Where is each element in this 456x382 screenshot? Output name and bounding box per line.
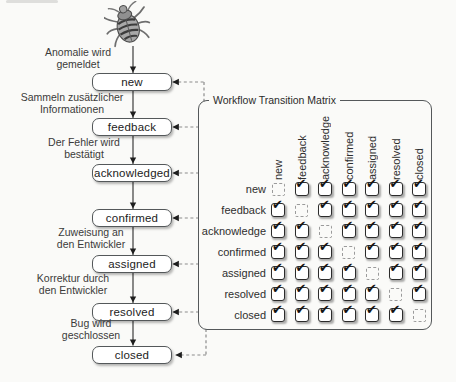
- matrix-cell-checked: ✔: [295, 308, 309, 322]
- matrix-column-header-confirmed: confirmed: [341, 105, 357, 180]
- matrix-cell-empty: [272, 183, 285, 196]
- matrix-cell-checked: ✔: [365, 287, 379, 301]
- matrix-row-label-acknowledge: acknowledge: [201, 225, 266, 237]
- matrix-cell-empty: [413, 309, 426, 322]
- annotation-line: Zuweisung an: [57, 227, 125, 239]
- matrix-cell-checked: ✔: [271, 308, 285, 322]
- arrow-left-icon: [172, 124, 179, 130]
- check-icon: ✔: [296, 260, 307, 275]
- arrow-down-icon: [130, 112, 136, 118]
- matrix-column-header-feedback: feedback: [294, 105, 310, 180]
- state-box-acknowledged: acknowledged: [92, 164, 172, 182]
- check-icon: ✔: [319, 260, 330, 275]
- check-icon: ✔: [319, 176, 330, 191]
- check-icon: ✔: [343, 302, 354, 317]
- matrix-cell-empty: [366, 267, 379, 280]
- check-icon: ✔: [343, 176, 354, 191]
- arrow-down-icon: [130, 158, 136, 164]
- check-icon: ✔: [272, 302, 283, 317]
- check-icon: ✔: [413, 260, 424, 275]
- check-icon: ✔: [319, 197, 330, 212]
- check-icon: ✔: [413, 239, 424, 254]
- check-icon: ✔: [413, 218, 424, 233]
- matrix-column-header-new: new: [270, 105, 286, 180]
- check-icon: ✔: [296, 239, 307, 254]
- matrix-cell-checked: ✔: [271, 287, 285, 301]
- matrix-row-label-feedback: feedback: [201, 204, 266, 216]
- matrix-row-label-new: new: [201, 183, 266, 195]
- check-icon: ✔: [390, 302, 401, 317]
- arrow-left-icon: [172, 215, 179, 221]
- matrix-row-label-closed: closed: [201, 309, 266, 321]
- matrix-cell-checked: ✔: [295, 224, 309, 238]
- bug-icon: [104, 1, 152, 51]
- matrix-cell-checked: ✔: [412, 182, 426, 196]
- matrix-cell-checked: ✔: [271, 266, 285, 280]
- check-icon: ✔: [413, 176, 424, 191]
- annotation-line: den Entwickler: [37, 285, 109, 297]
- check-icon: ✔: [366, 239, 377, 254]
- arrow-down-icon: [130, 297, 136, 303]
- matrix-cell-checked: ✔: [389, 182, 403, 196]
- matrix-cell-empty: [342, 246, 355, 259]
- matrix-cell-checked: ✔: [412, 266, 426, 280]
- annotation-new: Anomalie wirdgemeldet: [45, 47, 111, 70]
- annotation-line: bestätigt: [48, 149, 120, 161]
- check-icon: ✔: [296, 281, 307, 296]
- check-icon: ✔: [366, 302, 377, 317]
- matrix-column-header-acknowledge: acknowledge: [317, 105, 333, 180]
- state-box-assigned: assigned: [92, 255, 172, 273]
- matrix-cell-checked: ✔: [342, 182, 356, 196]
- check-icon: ✔: [272, 281, 283, 296]
- check-icon: ✔: [366, 197, 377, 212]
- matrix-cell-checked: ✔: [271, 245, 285, 259]
- annotation-assigned: Zuweisung anden Entwickler: [57, 227, 125, 250]
- annotation-line: Informationen: [21, 104, 124, 116]
- matrix-cell-checked: ✔: [365, 224, 379, 238]
- check-icon: ✔: [319, 281, 330, 296]
- matrix-cell-checked: ✔: [412, 203, 426, 217]
- state-box-feedback: feedback: [92, 118, 172, 136]
- matrix-cell-checked: ✔: [271, 203, 285, 217]
- check-icon: ✔: [272, 218, 283, 233]
- figure-canvas: Anomalie wirdgemeldetnewSammeln zusätzli…: [0, 0, 456, 382]
- check-icon: ✔: [366, 281, 377, 296]
- check-icon: ✔: [366, 218, 377, 233]
- matrix-cell-checked: ✔: [389, 245, 403, 259]
- annotation-line: Bug wird: [62, 318, 120, 330]
- matrix-cell-checked: ✔: [342, 203, 356, 217]
- arrow-left-icon: [172, 170, 179, 176]
- arrow-down-icon: [130, 203, 136, 209]
- matrix-cell-checked: ✔: [389, 224, 403, 238]
- check-icon: ✔: [343, 281, 354, 296]
- matrix-cell-checked: ✔: [365, 308, 379, 322]
- annotation-line: geschlossen: [62, 330, 120, 342]
- arrow-down-icon: [130, 249, 136, 255]
- matrix-row-label-assigned: assigned: [201, 267, 266, 279]
- check-icon: ✔: [272, 239, 283, 254]
- check-icon: ✔: [390, 176, 401, 191]
- check-icon: ✔: [390, 197, 401, 212]
- transition-matrix: Workflow Transition Matrix newfeedbackac…: [198, 100, 432, 330]
- arrow-down-icon: [130, 340, 136, 346]
- matrix-cell-checked: ✔: [318, 245, 332, 259]
- annotation-resolved: Korrektur durchden Entwickler: [37, 273, 109, 296]
- check-icon: ✔: [272, 197, 283, 212]
- check-icon: ✔: [296, 218, 307, 233]
- matrix-cell-checked: ✔: [412, 224, 426, 238]
- check-icon: ✔: [390, 239, 401, 254]
- matrix-cell-checked: ✔: [295, 266, 309, 280]
- matrix-cell-checked: ✔: [318, 287, 332, 301]
- matrix-row-label-resolved: resolved: [201, 288, 266, 300]
- matrix-cell-checked: ✔: [295, 182, 309, 196]
- check-icon: ✔: [343, 260, 354, 275]
- matrix-cell-empty: [319, 225, 332, 238]
- check-icon: ✔: [272, 260, 283, 275]
- check-icon: ✔: [343, 218, 354, 233]
- matrix-cell-checked: ✔: [342, 308, 356, 322]
- matrix-cell-checked: ✔: [365, 182, 379, 196]
- check-icon: ✔: [413, 281, 424, 296]
- matrix-cell-checked: ✔: [412, 245, 426, 259]
- annotation-line: Korrektur durch: [37, 273, 109, 285]
- check-icon: ✔: [319, 302, 330, 317]
